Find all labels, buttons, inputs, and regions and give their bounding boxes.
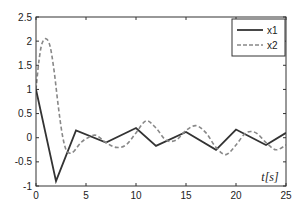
x-tick-label: 10 [130,190,142,201]
x-tick-label: 25 [280,190,292,201]
y-tick-label: -1 [23,181,32,192]
legend-label-x1: x1 [267,25,278,36]
x-axis-label: t[s] [261,170,279,184]
y-tick-label: 1.5 [18,60,32,71]
y-tick-label: 0 [26,132,32,143]
series-x1-line [36,89,286,181]
y-tick-label: 1 [26,84,32,95]
y-tick-label: 0.5 [18,108,32,119]
x-tick-label: 15 [180,190,192,201]
legend-label-x2: x2 [267,40,278,51]
y-tick-label: 2.5 [18,12,32,23]
line-chart: 0510152025-1-0.500.511.522.5 x1x2 t[s] [0,0,303,211]
y-tick-label: -0.5 [15,156,33,167]
x-tick-label: 20 [230,190,242,201]
x-tick-label: 0 [33,190,39,201]
x-tick-label: 5 [83,190,89,201]
y-tick-label: 2 [26,36,32,47]
series-layer [36,39,286,182]
legend: x1x2 [232,19,285,56]
